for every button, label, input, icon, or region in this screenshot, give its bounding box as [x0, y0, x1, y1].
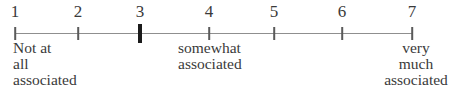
anchor-label-mid: somewhatassociated [178, 40, 242, 72]
anchor-label-low: Not atallassociated [13, 40, 77, 88]
anchor-label-line: associated [13, 72, 77, 88]
tick-mark-6 [341, 27, 343, 40]
anchor-label-line: much [384, 56, 448, 72]
tick-mark-emphasized-3 [138, 24, 142, 43]
anchor-label-line: all [13, 56, 77, 72]
anchor-label-line: associated [384, 72, 448, 88]
tick-mark-5 [273, 27, 275, 40]
anchor-label-high: verymuchassociated [384, 40, 448, 88]
anchor-label-line: somewhat [178, 40, 242, 56]
scale-number-5: 5 [270, 3, 279, 20]
scale-number-7: 7 [408, 3, 417, 20]
scale-number-4: 4 [205, 3, 214, 20]
scale-number-3: 3 [136, 3, 145, 20]
anchor-label-line: Not at [13, 40, 77, 56]
scale-axis-line [15, 33, 412, 34]
anchor-label-line: very [384, 40, 448, 56]
scale-number-1: 1 [11, 3, 20, 20]
scale-number-6: 6 [338, 3, 347, 20]
scale-number-2: 2 [74, 3, 83, 20]
rating-scale-figure: 1234567Not atallassociatedsomewhatassoci… [0, 0, 455, 95]
anchor-label-line: associated [178, 56, 242, 72]
tick-mark-2 [77, 27, 79, 40]
